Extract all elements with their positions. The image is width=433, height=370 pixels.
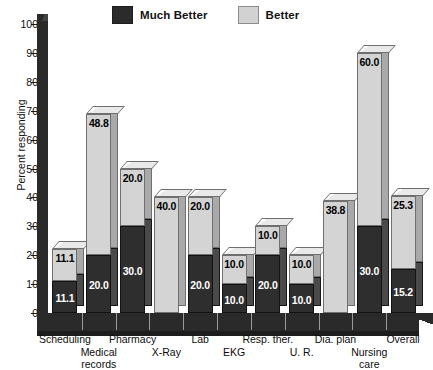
x-tick-nursing: Nursingcare — [351, 347, 387, 370]
y-tick-mark — [31, 82, 37, 83]
y-tick-mark — [31, 226, 37, 227]
x-tick-line2: care — [359, 358, 379, 370]
x-tick-overall: Overall — [386, 334, 419, 346]
y-tick-mark — [31, 313, 37, 314]
y-tick-mark — [31, 53, 37, 54]
x-axis-separator — [217, 313, 218, 330]
y-tick-mark — [31, 284, 37, 285]
x-tick-lab: Lab — [191, 334, 209, 346]
x-tick-medical: Medicalrecords — [81, 347, 117, 370]
x-tick-dia-plan: Dia. plan — [315, 334, 356, 346]
y-tick-mark — [31, 169, 37, 170]
y-tick-mark — [31, 255, 37, 256]
y-tick-mark — [31, 197, 37, 198]
x-axis-separator — [285, 313, 286, 330]
x-tick-resp-ther: Resp. ther. — [242, 334, 293, 346]
y-tick-mark — [31, 111, 37, 112]
x-tick-line2: records — [81, 358, 116, 370]
x-tick-pharmacy: Pharmacy — [109, 334, 156, 346]
y-tick-mark — [31, 24, 37, 25]
x-axis-separator — [82, 313, 83, 330]
x-tick-u-r: U. R. — [290, 347, 314, 359]
x-axis-separator — [386, 313, 387, 330]
x-axis-separator — [319, 313, 320, 330]
x-axis-separator — [251, 313, 252, 330]
x-axis-separator — [116, 313, 117, 330]
x-tick-x-ray: X-Ray — [152, 347, 181, 359]
y-tick-mark — [31, 140, 37, 141]
x-tick-ekg: EKG — [223, 347, 245, 359]
x-axis-separator — [183, 313, 184, 330]
x-axis-separator — [352, 313, 353, 330]
x-tick-scheduling: Scheduling — [39, 334, 91, 346]
x-axis-separator — [149, 313, 150, 330]
